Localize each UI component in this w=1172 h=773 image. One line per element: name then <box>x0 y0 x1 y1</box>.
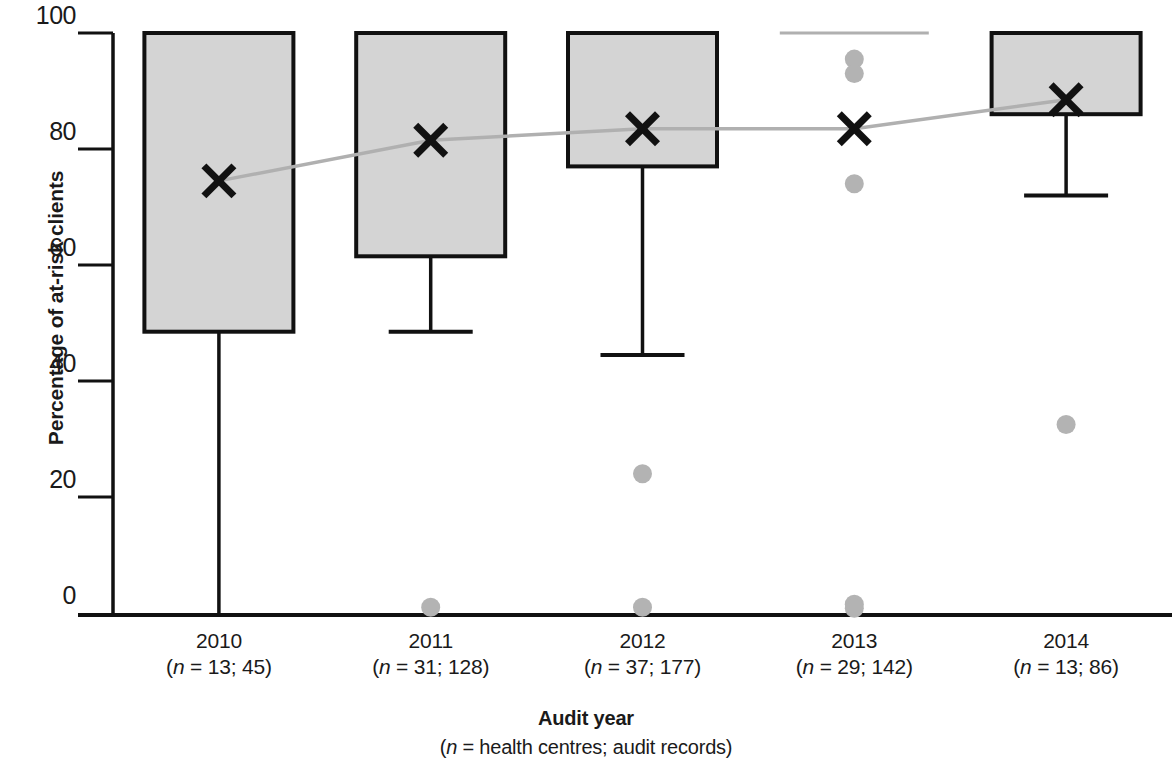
x-category-label: 2010(n = 13; 45) <box>113 628 325 680</box>
outlier-point <box>633 464 652 483</box>
box-group-2011 <box>356 33 505 617</box>
box-group-2010 <box>144 33 293 613</box>
x-axis-subtitle: (n = health centres; audit records) <box>0 736 1172 759</box>
x-category-sample-size: (n = 29; 142) <box>748 654 960 680</box>
boxplot-figure: Percentage of at-risk clients 0204060801… <box>0 0 1172 773</box>
x-category-label: 2014(n = 13; 86) <box>960 628 1172 680</box>
x-category-year: 2014 <box>960 628 1172 654</box>
series-layer <box>144 33 1140 618</box>
outlier-point <box>421 598 440 617</box>
x-category-sample-size: (n = 31; 128) <box>325 654 537 680</box>
y-tick-label: 60 <box>0 235 76 260</box>
box-group-2014 <box>992 33 1141 434</box>
y-tick-label: 100 <box>0 3 76 28</box>
y-tick-label: 0 <box>0 583 76 608</box>
x-category-year: 2013 <box>748 628 960 654</box>
outlier-point <box>845 599 864 618</box>
x-category-label: 2012(n = 37; 177) <box>537 628 749 680</box>
y-tick-label: 40 <box>0 351 76 376</box>
outlier-point <box>845 174 864 193</box>
y-tick-label: 20 <box>0 467 76 492</box>
box-rect <box>568 33 717 166</box>
x-category-year: 2011 <box>325 628 537 654</box>
outlier-point <box>1057 415 1076 434</box>
box-group-2012 <box>568 33 717 617</box>
x-category-year: 2010 <box>113 628 325 654</box>
x-category-sample-size: (n = 13; 45) <box>113 654 325 680</box>
x-category-sample-size: (n = 37; 177) <box>537 654 749 680</box>
y-tick-label: 80 <box>0 119 76 144</box>
x-axis-title: Audit year <box>0 707 1172 730</box>
x-category-label: 2013(n = 29; 142) <box>748 628 960 680</box>
x-category-year: 2012 <box>537 628 749 654</box>
outlier-point <box>845 64 864 83</box>
x-category-sample-size: (n = 13; 86) <box>960 654 1172 680</box>
x-category-label: 2011(n = 31; 128) <box>325 628 537 680</box>
outlier-point <box>633 598 652 617</box>
